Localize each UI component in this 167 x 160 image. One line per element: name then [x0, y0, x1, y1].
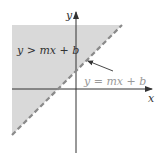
half-plane-diagram: y x y > mx + b y = mx + b — [0, 0, 167, 160]
x-axis-label: x — [148, 92, 155, 105]
region-inequality-label: y > mx + b — [16, 44, 79, 57]
leader-arrow — [88, 61, 113, 71]
boundary-equation-label: y = mx + b — [83, 75, 146, 88]
y-axis-label: y — [65, 9, 73, 22]
